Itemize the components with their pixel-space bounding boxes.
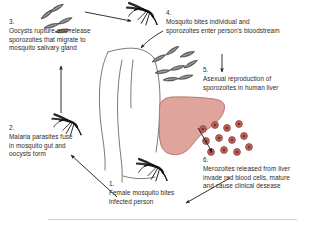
mosquito-top-icon [127, 3, 157, 25]
step-4-number: 4. [166, 9, 171, 18]
step-3-number: 3. [9, 18, 14, 27]
step-5-number: 5. [203, 66, 208, 75]
step-6-number: 6. [203, 156, 208, 165]
human-torso-outline [99, 48, 160, 182]
arrow-step4-to-person [141, 31, 163, 48]
step-6-caption: Merozoites released from liver invade re… [203, 165, 290, 191]
mosquito-bottom-icon [137, 159, 167, 181]
step-1-caption: Female mosquito bites infected person [109, 189, 174, 206]
malaria-lifecycle-diagram: 3. Oocysts rupture and release sporozoit… [0, 0, 319, 227]
step-2-caption: Malaria parasites fuse in mosquito gut a… [9, 133, 73, 159]
step-4-caption: Mosquito bites individual and sporozoite… [166, 18, 280, 35]
step-2-number: 2. [9, 124, 14, 133]
step-3-caption: Oocysts rupture and release sporozoites … [9, 27, 91, 53]
step-1-number: 1. [109, 180, 114, 189]
step-5-caption: Asexual reproduction of sporozoites in h… [203, 75, 279, 92]
arrow-step3-to-mosquito [85, 12, 131, 21]
